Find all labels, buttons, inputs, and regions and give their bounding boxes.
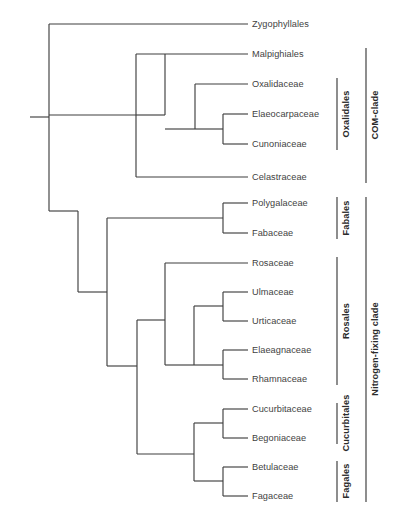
leaf-label-betulaceae: Betulaceae xyxy=(252,462,298,472)
leaf-label-elaeagnaceae: Elaeagnaceae xyxy=(252,345,311,355)
leaf-label-oxalidaceae: Oxalidaceae xyxy=(252,79,304,89)
phylogenetic-tree-figure: ZygophyllalesMalpighialesOxalidaceaeElae… xyxy=(0,0,404,521)
clade-label-cucurbitales: Cucurbitales xyxy=(341,395,351,452)
leaf-label-ulmaceae: Ulmaceae xyxy=(252,287,294,297)
clade-label-com-clade: COM-clade xyxy=(370,91,380,140)
clade-label-oxalidales: Oxalidales xyxy=(341,91,351,138)
leaf-label-celastraceae: Celastraceae xyxy=(252,172,307,182)
leaf-label-zygophyllales: Zygophyllales xyxy=(252,19,309,29)
leaf-label-polygalaceae: Polygalaceae xyxy=(252,198,308,208)
leaf-label-begoniaceae: Begoniaceae xyxy=(252,433,306,443)
leaf-label-rosaceae: Rosaceae xyxy=(252,258,294,268)
leaf-label-elaeocarpaceae: Elaeocarpaceae xyxy=(252,109,319,119)
clade-label-nitrogen-fixing-clade: Nitrogen-fixing clade xyxy=(370,302,380,395)
leaf-label-malpighiales: Malpighiales xyxy=(252,49,304,59)
leaf-label-rhamnaceae: Rhamnaceae xyxy=(252,374,307,384)
leaf-label-cunoniaceae: Cunoniaceae xyxy=(252,139,307,149)
leaf-label-fabaceae: Fabaceae xyxy=(252,228,293,238)
clade-label-rosales: Rosales xyxy=(341,303,351,339)
clade-label-fagales: Fagales xyxy=(341,464,351,499)
leaf-label-fagaceae: Fagaceae xyxy=(252,491,293,501)
clade-label-fabales: Fabales xyxy=(341,201,351,236)
leaf-label-cucurbitaceae: Cucurbitaceae xyxy=(252,404,312,414)
leaf-label-urticaceae: Urticaceae xyxy=(252,316,296,326)
